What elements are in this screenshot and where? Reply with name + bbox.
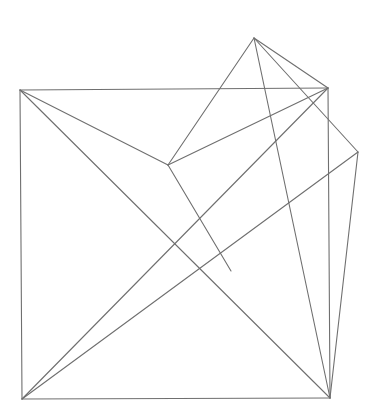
geometric-line-drawing xyxy=(0,0,376,411)
line-diagram xyxy=(0,0,376,411)
